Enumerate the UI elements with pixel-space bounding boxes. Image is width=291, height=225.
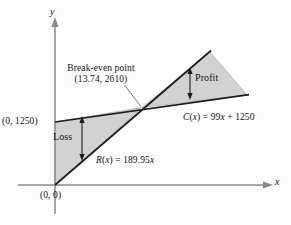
cost-rhs-head: = 99 [200, 112, 220, 122]
cost-function-equation-label: C(x) = 99x + 1250 [183, 112, 255, 123]
y-intercept-coordinate-label: (0, 1250) [2, 116, 38, 127]
revenue-variable-2: x [150, 155, 154, 165]
break-even-figure: y x Break-even point (13.74, 2610) (0, 1… [0, 0, 291, 225]
y-axis-label: y [50, 6, 55, 17]
revenue-rhs: = 189.95 [113, 155, 150, 165]
break-even-coordinates: (13.74, 2610) [56, 74, 146, 85]
break-even-leader-line [125, 85, 141, 106]
profit-region-label: Profit [195, 72, 218, 83]
x-axis-arrowhead [263, 181, 273, 188]
x-axis-label: x [275, 176, 280, 187]
break-even-title: Break-even point [56, 63, 146, 74]
cost-rhs-tail: + 1250 [225, 112, 255, 122]
y-axis-arrowhead [51, 17, 58, 27]
origin-coordinate-label: (0, 0) [40, 190, 61, 201]
break-even-point-annotation: Break-even point (13.74, 2610) [56, 63, 146, 84]
loss-region-label: Loss [53, 131, 72, 142]
revenue-function-equation-label: R(x) = 189.95x [96, 155, 154, 166]
